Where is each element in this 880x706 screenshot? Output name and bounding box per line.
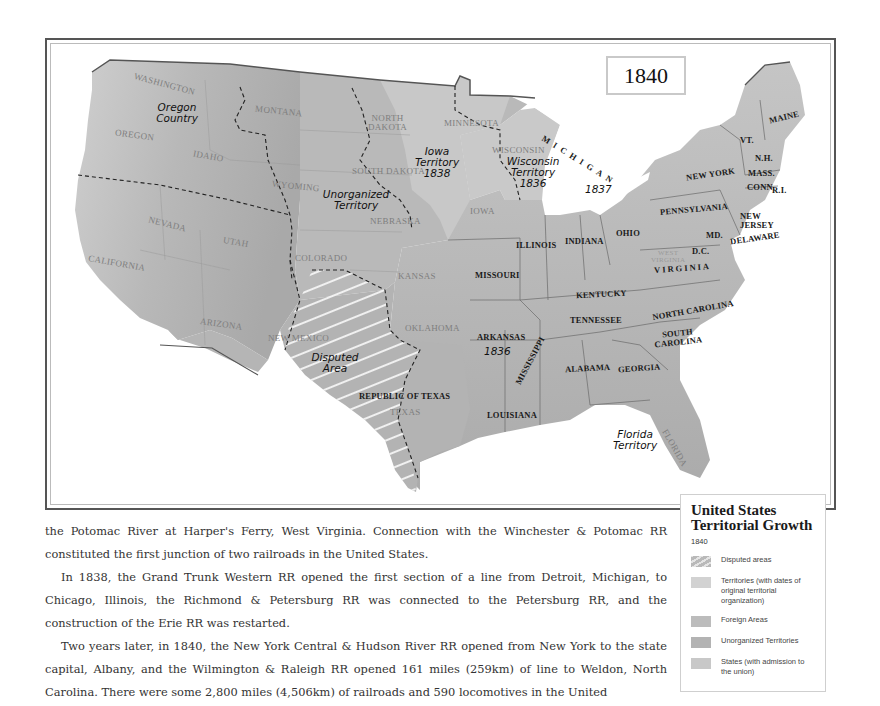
legend-item-disputed: Disputed areas xyxy=(691,555,815,567)
label-west-virginia: WEST VIRGINIA xyxy=(651,250,685,265)
legend-item-territories: Territories (with dates of original terr… xyxy=(691,576,815,606)
label-oklahoma: OKLAHOMA xyxy=(405,324,460,333)
label-arkansas-year: 1836 xyxy=(484,346,511,357)
label-north-dakota: NORTH DAKOTA xyxy=(368,114,407,133)
label-alabama: ALABAMA xyxy=(565,363,611,374)
legend-item-unorganized: Unorganized Territories xyxy=(691,636,815,648)
label-missouri: MISSOURI xyxy=(475,271,520,280)
label-vt: VT. xyxy=(740,136,754,145)
unorganized-swatch-icon xyxy=(691,637,711,648)
paragraph-1: the Potomac River at Harper's Ferry, Wes… xyxy=(45,520,667,566)
label-michigan-year: 1837 xyxy=(585,184,612,195)
label-new-jersey: NEW JERSEY xyxy=(740,212,774,230)
label-indiana: INDIANA xyxy=(565,237,604,246)
label-colorado: COLORADO xyxy=(295,254,347,263)
map-legend: United States Territorial Growth 1840 Di… xyxy=(680,494,826,692)
label-nh: N.H. xyxy=(755,154,773,163)
hatched-swatch-icon xyxy=(691,556,711,567)
legend-label: Unorganized Territories xyxy=(721,636,798,646)
label-republic-of-texas: REPUBLIC OF TEXAS xyxy=(359,392,450,401)
label-louisiana: LOUISIANA xyxy=(487,411,537,420)
label-wisconsin: WISCONSIN xyxy=(492,146,545,155)
legend-year: 1840 xyxy=(691,537,815,546)
legend-label: Territories (with dates of original terr… xyxy=(721,576,815,606)
state-swatch-icon xyxy=(691,658,711,669)
label-ohio: OHIO xyxy=(616,229,640,238)
label-dc: D.C. xyxy=(692,247,709,256)
label-conn: CONN. xyxy=(747,183,775,192)
label-new-mexico: NEW MEXICO xyxy=(268,334,329,343)
legend-item-foreign: Foreign Areas xyxy=(691,615,815,627)
label-kansas: KANSAS xyxy=(398,272,436,281)
label-texas: TEXAS xyxy=(390,408,421,417)
paragraph-3: Two years later, in 1840, the New York C… xyxy=(45,635,667,704)
label-unorganized-territory: Unorganized Territory xyxy=(316,189,396,211)
year-box: 1840 xyxy=(606,56,686,95)
label-wisconsin-territory: Wisconsin Territory 1836 xyxy=(498,156,568,189)
label-tennessee: TENNESSEE xyxy=(570,316,622,325)
label-south-dakota: SOUTH DAKOTA xyxy=(352,167,425,176)
label-minnesota: MINNESOTA xyxy=(444,119,499,128)
foreign-swatch-icon xyxy=(691,616,711,627)
legend-label: Disputed areas xyxy=(721,555,771,565)
label-illinois: ILLINOIS xyxy=(516,241,556,250)
label-arkansas: ARKANSAS xyxy=(477,333,525,342)
label-disputed-area: Disputed Area xyxy=(305,352,365,374)
body-text: the Potomac River at Harper's Ferry, Wes… xyxy=(45,520,667,704)
label-ri: R.I. xyxy=(772,186,787,195)
label-oregon-country: Oregon Country xyxy=(147,102,207,124)
legend-title: United States Territorial Growth xyxy=(691,503,815,533)
label-md: MD. xyxy=(706,231,723,240)
paragraph-2: In 1838, the Grand Trunk Western RR open… xyxy=(45,566,667,635)
label-mass: MASS. xyxy=(748,169,775,178)
label-iowa: IOWA xyxy=(470,207,495,216)
territory-swatch-icon xyxy=(691,577,711,588)
legend-label: States (with admission to the union) xyxy=(721,657,815,677)
label-florida-territory: Florida Territory xyxy=(608,429,662,451)
label-nebraska: NEBRASKA xyxy=(370,217,421,226)
legend-label: Foreign Areas xyxy=(721,615,768,625)
legend-item-states: States (with admission to the union) xyxy=(691,657,815,677)
